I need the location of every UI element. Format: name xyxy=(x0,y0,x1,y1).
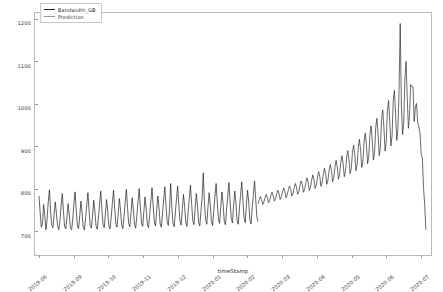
y-tick: 1100 xyxy=(17,52,35,71)
x-tick-mark xyxy=(178,255,179,258)
x-tick-label: 2019-08 xyxy=(27,273,48,292)
y-tick: 1000 xyxy=(17,95,35,114)
chart-legend: Bandwidth_GB Prediction xyxy=(40,3,102,23)
x-tick-label: 2020-03 xyxy=(270,273,291,292)
legend-item-bandwidth: Bandwidth_GB xyxy=(44,6,96,13)
y-tick-label: 1200 xyxy=(17,20,35,26)
y-tick: 900 xyxy=(21,137,35,156)
x-tick-label: 2020-05 xyxy=(340,273,361,292)
x-tick-label: 2020-02 xyxy=(235,273,256,292)
x-tick-label: 2020-07 xyxy=(409,273,430,292)
y-tick: 800 xyxy=(21,180,35,199)
x-tick-label: 2019-09 xyxy=(62,273,83,292)
x-tick-mark xyxy=(108,255,109,258)
legend-label-prediction: Prediction xyxy=(58,14,84,20)
x-tick-mark xyxy=(421,255,422,258)
y-tick: 1200 xyxy=(17,10,35,29)
y-tick-label: 1000 xyxy=(17,105,35,111)
y-tick: 700 xyxy=(21,222,35,241)
x-tick-label: 2020-01 xyxy=(201,273,222,292)
x-tick-mark xyxy=(386,255,387,258)
x-tick-label: 2019-12 xyxy=(166,273,187,292)
y-tick-mark xyxy=(35,146,38,147)
x-tick-mark xyxy=(247,255,248,258)
series-line-prediction xyxy=(258,24,426,230)
y-tick-mark xyxy=(35,189,38,190)
x-tick-mark xyxy=(74,255,75,258)
y-tick-mark xyxy=(35,231,38,232)
y-tick-mark xyxy=(35,61,38,62)
x-tick-mark xyxy=(143,255,144,258)
legend-swatch-prediction xyxy=(44,16,55,17)
legend-item-prediction: Prediction xyxy=(44,13,96,20)
x-tick-mark xyxy=(39,255,40,258)
x-tick-label: 2019-10 xyxy=(97,273,118,292)
legend-swatch-bandwidth xyxy=(44,9,55,10)
legend-label-bandwidth: Bandwidth_GB xyxy=(58,7,96,13)
y-tick-label: 900 xyxy=(21,147,35,153)
series-line-bandwidth xyxy=(39,173,258,230)
y-tick-label: 700 xyxy=(21,232,35,238)
y-tick-mark xyxy=(35,19,38,20)
y-tick-mark xyxy=(35,104,38,105)
x-tick-label: 2020-06 xyxy=(374,273,395,292)
y-tick-label: 800 xyxy=(21,190,35,196)
x-tick-label: 2020-04 xyxy=(305,273,326,292)
x-tick-mark xyxy=(352,255,353,258)
x-axis-title: timeStamp xyxy=(34,268,432,274)
y-tick-label: 1100 xyxy=(17,62,35,68)
x-tick-mark xyxy=(282,255,283,258)
x-tick-label: 2019-11 xyxy=(131,273,152,292)
series-canvas xyxy=(35,13,431,255)
plot-area: 700800900100011001200 2019-082019-092019… xyxy=(34,12,432,256)
x-tick-mark xyxy=(213,255,214,258)
x-tick-mark xyxy=(317,255,318,258)
